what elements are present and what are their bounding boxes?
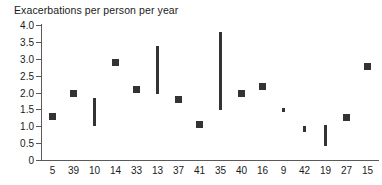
data-point-marker bbox=[49, 113, 56, 120]
data-point-marker bbox=[259, 83, 266, 90]
chart-title: Exacerbations per person per year bbox=[14, 4, 178, 16]
data-range-bar bbox=[324, 125, 327, 146]
x-axis-tick-label: 15 bbox=[353, 165, 382, 176]
data-point-marker bbox=[364, 63, 371, 70]
data-range-bar bbox=[282, 108, 285, 111]
data-point-marker bbox=[196, 121, 203, 128]
data-point-marker bbox=[133, 86, 140, 93]
y-axis-tick-label: 1.0 bbox=[4, 121, 34, 132]
data-point-marker bbox=[175, 96, 182, 103]
data-point-marker bbox=[112, 59, 119, 66]
data-range-bar bbox=[303, 126, 306, 132]
data-range-bar bbox=[93, 98, 96, 127]
y-axis-tick-label: 0.5 bbox=[4, 138, 34, 149]
y-axis-tick-label: 3.5 bbox=[4, 36, 34, 47]
x-axis-line bbox=[41, 160, 379, 161]
data-range-bar bbox=[156, 46, 159, 94]
y-axis-tick-label: 2.0 bbox=[4, 87, 34, 98]
y-axis-tick-label: 4.0 bbox=[4, 20, 34, 31]
plot-area bbox=[42, 25, 378, 160]
y-axis-tick-label: 1.5 bbox=[4, 104, 34, 115]
data-point-marker bbox=[343, 114, 350, 121]
y-axis-tick-label: 2.5 bbox=[4, 70, 34, 81]
y-axis-tick-label: 3.0 bbox=[4, 53, 34, 64]
data-point-marker bbox=[70, 90, 77, 97]
data-range-bar bbox=[219, 32, 222, 110]
y-axis-tick-label: 0 bbox=[4, 155, 34, 166]
y-axis-labels: 00.51.01.52.02.53.03.54.0 bbox=[0, 0, 34, 185]
exacerbations-chart: Exacerbations per person per year 00.51.… bbox=[0, 0, 382, 185]
data-point-marker bbox=[238, 90, 245, 97]
